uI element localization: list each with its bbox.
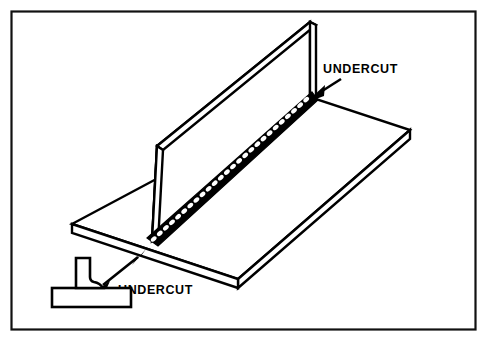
undercut-bottom-leader-line [103,257,138,285]
cross-section-base-plate [52,288,131,307]
diagram-canvas: UNDERCUT UNDERCUT [0,0,487,341]
vertical-plate-near-edge [310,22,316,99]
undercut-diagram-figure: UNDERCUT UNDERCUT Undercut weld defect i… [0,0,487,341]
cross-section-vertical-stem-with-undercut [76,258,103,288]
undercut-top-label: UNDERCUT [323,62,398,76]
callout-undercut-top: UNDERCUT [310,62,398,99]
